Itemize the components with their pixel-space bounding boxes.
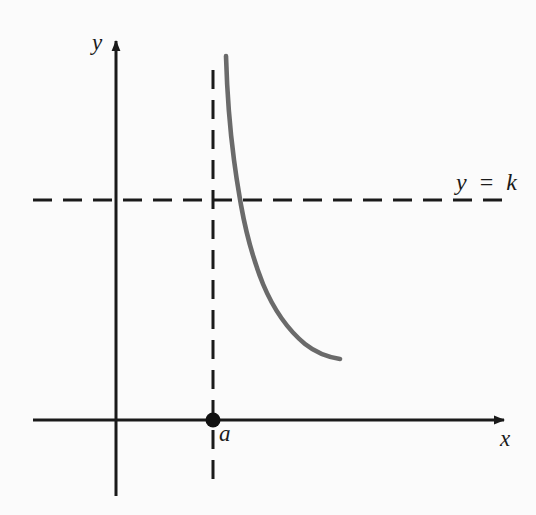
x-axis-label: x — [499, 426, 511, 451]
label-equals-sign: = — [480, 169, 494, 195]
horizontal-line-label-y-equals-k: y = k — [454, 169, 517, 195]
math-figure: y x a y = k — [0, 0, 536, 515]
label-k-var: k — [506, 169, 517, 195]
y-axis-label: y — [90, 30, 103, 55]
point-label-a: a — [219, 421, 231, 446]
label-y-var: y — [454, 169, 467, 195]
figure-canvas: y x a y = k — [0, 0, 536, 515]
figure-background — [0, 0, 536, 515]
